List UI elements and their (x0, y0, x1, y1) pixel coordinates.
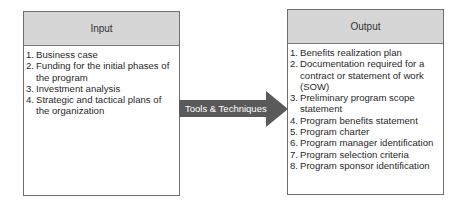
output-item: 7.Program selection criteria (290, 149, 439, 160)
output-item: 6.Program manager identification (290, 137, 439, 148)
output-title: Output (350, 21, 380, 32)
input-header: Input (24, 12, 179, 46)
output-item: 2.Documentation required for a contract … (290, 58, 439, 92)
output-header: Output (288, 10, 443, 44)
input-item: 2.Funding for the initial phases of the … (26, 60, 175, 83)
output-list: 1.Benefits realization plan 2.Documentat… (288, 44, 443, 171)
output-item: 8.Program sponsor identification (290, 160, 439, 171)
input-box: Input 1.Business case 2.Funding for the … (23, 11, 180, 196)
output-item: 4.Program benefits statement (290, 115, 439, 126)
output-item: 1.Benefits realization plan (290, 47, 439, 58)
input-item: 4.Strategic and tactical plans of the or… (26, 94, 175, 117)
input-title: Input (90, 23, 112, 34)
output-item: 5.Program charter (290, 126, 439, 137)
output-box: Output 1.Benefits realization plan 2.Doc… (287, 9, 444, 195)
arrow-label: Tools & Techniques (183, 101, 269, 116)
input-item: 1.Business case (26, 49, 175, 60)
output-item: 3.Preliminary program scope statement (290, 92, 439, 115)
input-list: 1.Business case 2.Funding for the initia… (24, 46, 179, 117)
input-item: 3.Investment analysis (26, 83, 175, 94)
